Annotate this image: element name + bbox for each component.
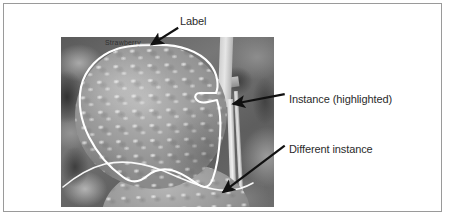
- annotation-different-instance-text: Different instance: [289, 143, 373, 155]
- annotation-instance-highlighted-text: Instance (highlighted): [289, 93, 392, 105]
- figure-frame: Strawberry Label Instance (highlighted) …: [3, 3, 442, 212]
- annotation-label-text: Label: [180, 15, 206, 27]
- photo-stamp-text: Strawberry: [105, 39, 141, 45]
- strawberry-photo: Strawberry: [61, 37, 274, 207]
